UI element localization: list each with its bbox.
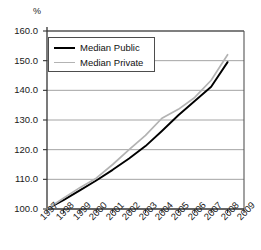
y-axis-tick-label: 140.0 xyxy=(4,85,38,95)
y-axis-tick-label: 130.0 xyxy=(4,115,38,125)
legend-swatch-median-public xyxy=(54,47,75,49)
chart-legend: Median Public Median Private xyxy=(48,37,155,72)
y-axis-tick-label: 160.0 xyxy=(4,26,38,36)
chart-container: % 160.0150.0140.0130.0120.0110.0100.0 19… xyxy=(0,0,261,250)
y-axis-tick-label: 100.0 xyxy=(4,204,38,214)
y-axis-tick-label: 120.0 xyxy=(4,145,38,155)
legend-label-median-public: Median Public xyxy=(80,41,140,55)
legend-label-median-private: Median Private xyxy=(80,56,143,70)
y-axis-tick-label: 110.0 xyxy=(4,174,38,184)
data-series xyxy=(47,55,228,209)
y-axis-tick-label: 150.0 xyxy=(4,56,38,66)
legend-swatch-median-private xyxy=(54,62,75,63)
